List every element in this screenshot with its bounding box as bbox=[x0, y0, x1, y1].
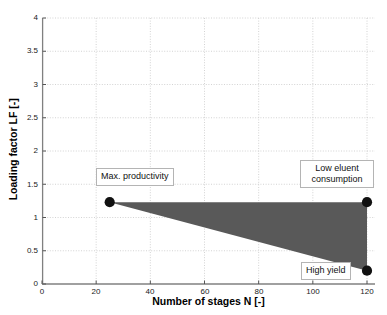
y-tick-label-0: 0 bbox=[14, 280, 38, 288]
x-tick-label-20: 20 bbox=[84, 288, 108, 296]
marker-max-productivity bbox=[105, 197, 115, 207]
y-tick-label-3_5: 3.5 bbox=[14, 47, 38, 55]
annotation-low-eluent-line1: Low eluent bbox=[315, 163, 359, 173]
x-tick-label-120: 120 bbox=[355, 288, 379, 296]
x-tick-label-0: 0 bbox=[30, 288, 54, 296]
marker-low-eluent-consumption bbox=[362, 197, 372, 207]
y-tick-label-4: 4 bbox=[14, 14, 38, 22]
annotation-high-yield: High yield bbox=[301, 262, 351, 280]
x-axis-title: Number of stages N [-] bbox=[42, 296, 375, 307]
annotation-max-productivity: Max. productivity bbox=[96, 168, 174, 186]
y-axis-title: Loading factor LF [-] bbox=[8, 79, 19, 219]
annotation-low-eluent-line2: consumption bbox=[311, 174, 362, 184]
chart-figure: 4 3.5 3 2.5 2 1.5 1 0.5 0 0 20 40 60 80 … bbox=[0, 0, 387, 315]
y-tick-label-0_5: 0.5 bbox=[14, 247, 38, 255]
annotation-low-eluent-consumption: Low eluent consumption bbox=[300, 160, 374, 188]
pareto-region bbox=[110, 202, 367, 271]
marker-high-yield bbox=[362, 266, 372, 276]
x-tick-label-100: 100 bbox=[301, 288, 325, 296]
